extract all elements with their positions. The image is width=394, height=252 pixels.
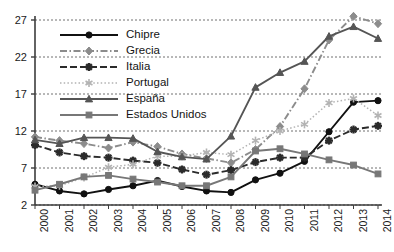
data-point-marker	[155, 179, 161, 185]
data-point-marker	[375, 111, 382, 119]
data-point-marker	[350, 12, 357, 20]
data-point-marker	[374, 20, 381, 28]
x-axis-tick-label: 2004	[137, 209, 148, 232]
y-axis-tick-label: 7	[21, 163, 27, 174]
x-axis-tick-labels: 2000200120022003200420052006200720082009…	[0, 207, 394, 252]
data-point-marker	[374, 122, 382, 130]
data-point-marker	[375, 98, 381, 104]
data-point-marker	[86, 112, 92, 118]
data-point-marker	[228, 151, 235, 159]
legend-item-grecia[interactable]: Grecia	[58, 43, 233, 59]
chart-legend: ChipreGreciaItaliaPortugalEspañaEstados …	[58, 27, 233, 123]
data-point-marker	[326, 99, 333, 107]
y-axis-tick-label: 22	[15, 52, 27, 63]
legend-line-sample	[58, 59, 120, 75]
legend-label: Estados Unidos	[120, 109, 207, 121]
legend-label: España	[120, 93, 165, 105]
y-axis-tick-label: 27	[15, 15, 27, 26]
data-point-marker	[302, 151, 308, 157]
data-point-marker	[106, 173, 112, 179]
data-point-marker	[105, 154, 113, 162]
legend-line-sample	[58, 91, 120, 107]
legend-label: Grecia	[120, 45, 160, 57]
data-point-marker	[178, 165, 186, 173]
x-axis-tick-label: 2002	[88, 209, 99, 232]
legend-item-portugal[interactable]: Portugal	[58, 75, 233, 91]
data-point-marker	[130, 183, 136, 189]
legend-label: Italia	[120, 61, 150, 73]
data-point-marker	[85, 47, 92, 55]
x-axis-tick-label: 2000	[39, 209, 50, 232]
x-axis-tick-label: 2008	[235, 209, 246, 232]
x-axis-tick-label: 2014	[382, 209, 393, 232]
legend-line-sample	[58, 107, 120, 123]
data-point-marker	[130, 176, 136, 182]
x-axis-tick-label: 2009	[260, 209, 271, 232]
data-point-marker	[350, 23, 357, 30]
data-point-marker	[277, 146, 283, 152]
legend-line-sample	[58, 43, 120, 59]
x-axis-tick-label: 2005	[162, 209, 173, 232]
unemployment-line-chart: 2712172227 20002001200220032004200520062…	[0, 0, 394, 252]
data-point-marker	[228, 189, 234, 195]
legend-item-españa[interactable]: España	[58, 91, 233, 107]
legend-label: Portugal	[120, 77, 169, 89]
data-point-marker	[81, 191, 87, 197]
data-point-marker	[253, 148, 259, 154]
x-axis-tick-label: 2011	[309, 209, 320, 232]
data-point-marker	[105, 163, 112, 171]
data-point-marker	[57, 181, 63, 187]
x-axis-tick-label: 2006	[186, 209, 197, 232]
data-point-marker	[86, 32, 92, 38]
data-point-marker	[326, 129, 332, 135]
data-point-marker	[85, 63, 93, 71]
legend-item-italia[interactable]: Italia	[58, 59, 233, 75]
data-point-marker	[81, 174, 87, 180]
data-point-marker	[80, 152, 88, 160]
data-point-marker	[351, 162, 357, 168]
data-point-marker	[325, 137, 333, 145]
data-point-marker	[252, 137, 259, 145]
data-point-marker	[326, 157, 332, 163]
data-point-marker	[56, 148, 64, 156]
legend-line-sample	[58, 75, 120, 91]
y-axis-tick-label: 17	[15, 89, 27, 100]
data-point-marker	[227, 159, 234, 167]
legend-label: Chipre	[120, 29, 160, 41]
y-axis-tick-label: 12	[15, 126, 27, 137]
x-axis-tick-label: 2007	[211, 209, 222, 232]
x-axis-tick-label: 2012	[333, 209, 344, 232]
data-point-marker	[375, 171, 381, 177]
x-axis-tick-label: 2010	[284, 209, 295, 232]
data-point-marker	[204, 183, 210, 189]
x-axis-tick-label: 2013	[358, 209, 369, 232]
data-point-marker	[105, 144, 112, 152]
data-point-marker	[179, 183, 185, 189]
data-point-marker	[350, 126, 358, 134]
x-axis-tick-label: 2001	[64, 209, 75, 232]
data-point-marker	[32, 187, 38, 193]
data-point-marker	[203, 171, 211, 179]
data-point-marker	[276, 154, 284, 162]
legend-item-chipre[interactable]: Chipre	[58, 27, 233, 43]
legend-line-sample	[58, 27, 120, 43]
data-point-marker	[277, 170, 283, 176]
data-point-marker	[227, 132, 234, 139]
legend-item-estados-unidos[interactable]: Estados Unidos	[58, 107, 233, 123]
data-point-marker	[252, 177, 258, 183]
data-point-marker	[252, 84, 259, 91]
data-point-marker	[105, 186, 111, 192]
data-point-marker	[252, 158, 260, 166]
x-axis-tick-label: 2003	[113, 209, 124, 232]
data-point-marker	[228, 174, 234, 180]
